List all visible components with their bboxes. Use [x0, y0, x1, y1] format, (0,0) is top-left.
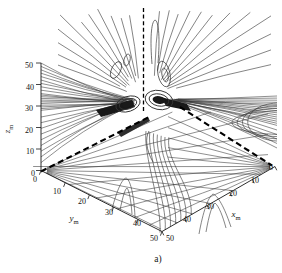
y-tick-40: 40 — [133, 220, 141, 228]
contour-lines — [33, 9, 277, 234]
y-tick-10: 10 — [53, 188, 61, 196]
panel-caption: a) — [154, 254, 161, 264]
contour-plot-canvas — [0, 0, 282, 273]
y-tick-20: 20 — [78, 198, 86, 206]
z-tick-20: 20 — [25, 127, 33, 135]
contour-figure: 50 40 30 20 10 0 0 10 20 30 40 50 0 10 2… — [0, 0, 282, 273]
x-tick-20: 20 — [229, 190, 237, 198]
x-tick-50: 50 — [166, 235, 174, 243]
x-tick-30: 30 — [206, 203, 214, 211]
x-axis-label: xm — [231, 210, 240, 222]
dashed-lines — [41, 8, 272, 172]
x-tick-0: 0 — [269, 164, 273, 172]
y-axis-label: ym — [69, 214, 78, 226]
x-tick-40: 40 — [183, 216, 191, 224]
z-tick-40: 40 — [26, 84, 34, 92]
z-tick-10: 10 — [26, 148, 34, 156]
y-tick-30: 30 — [105, 209, 113, 217]
z-tick-50: 50 — [25, 62, 33, 70]
z-axis-label: zm — [3, 125, 15, 134]
z-tick-30: 30 — [25, 105, 33, 113]
y-tick-0: 0 — [33, 176, 37, 184]
x-tick-10: 10 — [251, 177, 259, 185]
y-tick-50: 50 — [150, 235, 158, 243]
